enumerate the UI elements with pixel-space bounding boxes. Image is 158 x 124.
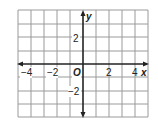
x-tick-neg2: −2 bbox=[47, 67, 59, 78]
y-tick-neg2: −2 bbox=[68, 86, 80, 97]
y-tick-2: 2 bbox=[73, 33, 79, 44]
x-axis-label: x bbox=[140, 67, 147, 78]
coordinate-grid: −4 −2 2 4 x O 2 −2 y bbox=[0, 0, 158, 124]
x-tick-2: 2 bbox=[106, 67, 112, 78]
origin-label: O bbox=[73, 67, 81, 78]
x-tick-4: 4 bbox=[132, 67, 138, 78]
x-tick-neg4: −4 bbox=[21, 67, 33, 78]
y-axis-label: y bbox=[85, 11, 92, 22]
y-axis-up-arrow-icon bbox=[81, 10, 86, 16]
